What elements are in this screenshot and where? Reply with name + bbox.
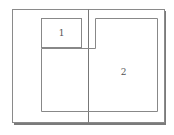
frame-1-label: 1 <box>59 28 65 38</box>
frame-2-label: 2 <box>121 67 127 77</box>
page-spread-diagram: 1 2 <box>0 0 174 135</box>
